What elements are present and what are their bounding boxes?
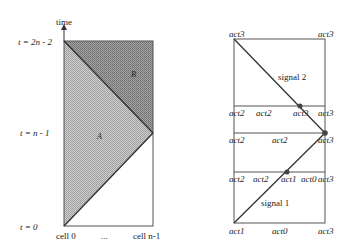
x-label-ellipsis: ... [101,231,108,241]
space-time-diagram [61,24,153,226]
y-label-bottom: t = 0 [20,222,38,232]
row0-label-1: act3 [318,29,334,39]
y-label-mid: t = n - 1 [20,128,50,138]
row4-label-1: act0 [272,226,288,236]
row1-label-1: act2 [256,108,272,118]
diagram-canvas [0,0,351,248]
row3-label-3: act0 [301,174,317,184]
signal-2-line [234,39,325,133]
row1-label-2: act3 [293,108,309,118]
row4-label-2: act3 [318,226,334,236]
signal-diagram [234,39,328,223]
x-label-cell0: cell 0 [56,231,76,241]
row4-label-0: act1 [229,226,245,236]
row2-label-1: act2 [272,135,288,145]
row1-label-3: act3 [318,108,334,118]
signal-2-label: signal 2 [278,72,306,82]
region-b-label: B [131,70,136,80]
row3-label-2: act1 [281,174,297,184]
signal-1-label: signal 1 [261,198,289,208]
row1-label-0: act2 [229,108,245,118]
y-label-top: t = 2n - 2 [18,37,52,47]
time-axis-label: time [56,17,72,27]
row3-label-1: act2 [253,174,269,184]
row3-label-4: act3 [318,174,334,184]
region-a-label: A [97,132,102,142]
x-label-celln: cell n-1 [133,231,160,241]
row2-label-2: act3 [318,135,334,145]
row2-label-0: act2 [229,135,245,145]
row0-label-0: act3 [229,29,245,39]
row3-label-0: act2 [229,174,245,184]
